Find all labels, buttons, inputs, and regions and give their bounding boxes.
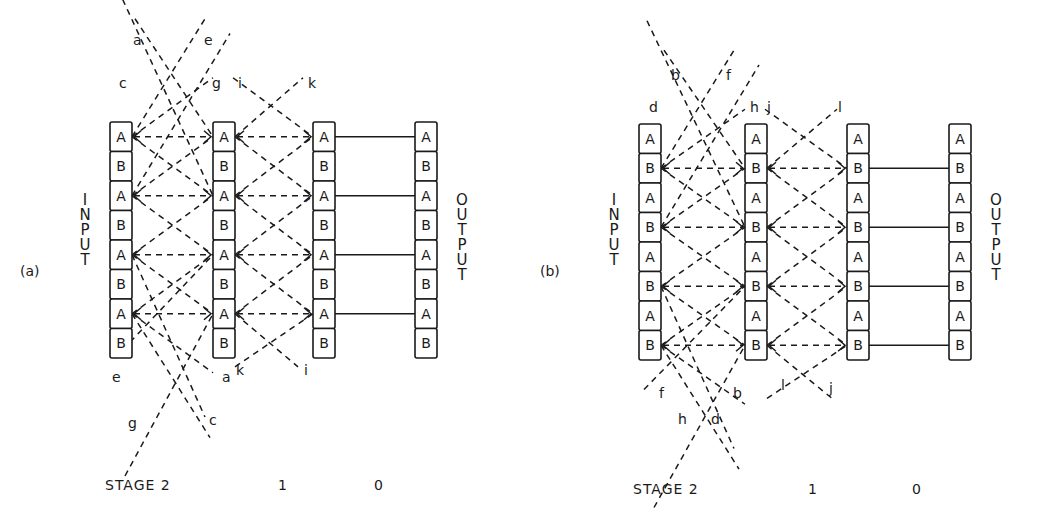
- input-label: INPUT: [79, 191, 90, 269]
- cell-A: A: [745, 301, 767, 331]
- omega-network-diagram: (a) INPUT OUTPUT ABABABABABABABABABABABA…: [0, 0, 1059, 526]
- svg-text:A: A: [853, 190, 863, 206]
- cell-A: A: [313, 181, 335, 211]
- cell-A: A: [313, 299, 335, 329]
- svg-text:B: B: [421, 276, 431, 292]
- wire-label-l: l: [781, 377, 785, 393]
- cell-A: A: [415, 240, 437, 270]
- svg-text:B: B: [955, 278, 965, 294]
- cell-B: B: [847, 272, 869, 302]
- stage-2-label: STAGE 2: [105, 477, 171, 493]
- wire-label-d: d: [711, 411, 720, 427]
- svg-text:B: B: [421, 335, 431, 351]
- svg-text:B: B: [421, 217, 431, 233]
- svg-text:A: A: [319, 247, 329, 263]
- svg-text:A: A: [751, 190, 761, 206]
- wire-label-k: k: [308, 75, 317, 91]
- switch-column-3: ABABABAB: [949, 124, 971, 360]
- cell-A: A: [847, 242, 869, 272]
- switch-column-0: ABABABAB: [639, 124, 661, 360]
- switch-column-2: ABABABAB: [847, 124, 869, 360]
- svg-text:B: B: [116, 276, 126, 292]
- cell-B: B: [213, 270, 235, 300]
- shuffle-link: [661, 345, 739, 469]
- shuffle-link: [132, 314, 210, 438]
- output-label: OUTPUT: [990, 191, 1002, 284]
- cell-B: B: [213, 152, 235, 182]
- cell-B: B: [313, 270, 335, 300]
- shuffle-link: [235, 314, 313, 367]
- svg-text:B: B: [645, 278, 655, 294]
- cell-B: B: [313, 152, 335, 182]
- arrowhead-right-icon: [736, 221, 743, 233]
- svg-text:B: B: [853, 278, 863, 294]
- switch-column-2: ABABABAB: [313, 122, 335, 358]
- svg-text:A: A: [219, 129, 229, 145]
- cell-A: A: [949, 301, 971, 331]
- panel-b: (b) INPUT OUTPUT ABABABABABABABABABABABA…: [540, 21, 1002, 508]
- cell-B: B: [639, 331, 661, 361]
- svg-text:B: B: [645, 219, 655, 235]
- shuffle-link: [661, 286, 734, 448]
- svg-text:B: B: [751, 278, 761, 294]
- svg-text:A: A: [645, 308, 655, 324]
- cell-A: A: [110, 240, 132, 270]
- wire-label-c: c: [119, 75, 127, 91]
- svg-text:A: A: [421, 306, 431, 322]
- svg-text:B: B: [116, 158, 126, 174]
- svg-text:B: B: [853, 219, 863, 235]
- shuffle-link: [135, 19, 213, 137]
- cell-A: A: [213, 299, 235, 329]
- shuffle-link: [767, 345, 847, 398]
- cell-A: A: [415, 181, 437, 211]
- shuffle-link: [132, 255, 205, 417]
- shuffle-link: [132, 19, 205, 137]
- cell-B: B: [847, 331, 869, 361]
- svg-text:A: A: [116, 306, 126, 322]
- svg-text:B: B: [116, 217, 126, 233]
- svg-text:B: B: [645, 160, 655, 176]
- wire-label-d: d: [649, 99, 658, 115]
- cell-B: B: [847, 154, 869, 184]
- cell-A: A: [949, 124, 971, 154]
- cell-B: B: [213, 329, 235, 359]
- wiring: [644, 21, 949, 508]
- svg-text:A: A: [853, 249, 863, 265]
- cell-A: A: [847, 301, 869, 331]
- svg-text:A: A: [319, 306, 329, 322]
- cell-B: B: [313, 329, 335, 359]
- svg-text:A: A: [645, 190, 655, 206]
- cell-B: B: [313, 211, 335, 241]
- switch-column-0: ABABABAB: [110, 122, 132, 358]
- arrowhead-right-icon: [736, 280, 743, 292]
- wire-label-l: l: [838, 99, 842, 115]
- cell-A: A: [847, 124, 869, 154]
- cell-A: A: [110, 122, 132, 152]
- stage-1-label: 1: [278, 477, 288, 493]
- cell-B: B: [213, 211, 235, 241]
- svg-text:B: B: [219, 217, 229, 233]
- svg-text:A: A: [751, 308, 761, 324]
- stage-2-label: STAGE 2: [633, 481, 699, 497]
- wire-label-h: h: [678, 411, 687, 427]
- wire-label-e: e: [204, 32, 213, 48]
- input-label: INPUT: [608, 191, 619, 269]
- panel-tag: (a): [20, 263, 40, 279]
- svg-text:B: B: [751, 337, 761, 353]
- svg-text:T: T: [79, 251, 90, 269]
- svg-text:A: A: [955, 249, 965, 265]
- switch-column-3: ABABABAB: [415, 122, 437, 358]
- svg-text:A: A: [219, 188, 229, 204]
- shuffle-link: [767, 345, 832, 398]
- svg-text:B: B: [219, 335, 229, 351]
- wire-label-k: k: [236, 362, 245, 378]
- svg-text:A: A: [751, 249, 761, 265]
- svg-text:A: A: [645, 249, 655, 265]
- wire-label-a: a: [133, 32, 142, 48]
- svg-text:B: B: [319, 276, 329, 292]
- svg-text:A: A: [853, 131, 863, 147]
- wire-label-b: b: [671, 67, 680, 83]
- cell-A: A: [415, 299, 437, 329]
- svg-text:A: A: [955, 308, 965, 324]
- switch-column-1: ABABABAB: [745, 124, 767, 360]
